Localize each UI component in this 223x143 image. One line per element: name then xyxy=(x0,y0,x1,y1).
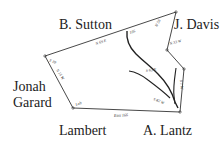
northeast-corner-note: N 56 xyxy=(153,18,162,28)
southeast-line-note: S 82 W xyxy=(153,96,166,105)
west-line-note: N 15 W xyxy=(55,67,66,81)
north-line-end-note: 105 xyxy=(129,28,136,35)
west-corner-note: S 10 xyxy=(49,57,57,64)
southwest-corner-note: Lab xyxy=(74,100,83,107)
east-lower-note: S 1 W xyxy=(179,80,185,90)
owner-label-west-line2: Garard xyxy=(13,95,52,110)
creek-branch-east xyxy=(174,68,176,104)
owner-label-west-line1: Jonah xyxy=(13,79,46,94)
owner-label-north: B. Sutton xyxy=(59,17,112,32)
south-line-note: East 166 xyxy=(113,112,128,118)
owner-label-northeast: J. Davis xyxy=(174,17,219,32)
owner-label-southwest: Lambert xyxy=(59,123,106,138)
owner-label-southeast: A. Lantz xyxy=(143,123,192,138)
creek-branch-west xyxy=(129,71,170,98)
east-upper-note: N 33 W xyxy=(168,38,182,46)
